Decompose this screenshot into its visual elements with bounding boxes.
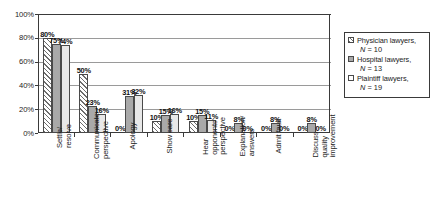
x-axis-label-cell: Apology [111,136,148,218]
x-axis-label-cell: Settle/resolve [38,136,75,218]
bar[interactable]: 10% [152,121,161,133]
x-axis-label-cell: Discussqualityimprovement [294,136,331,218]
bar-slot: 75% [52,14,61,133]
bar-group: 10%15%16% [148,14,185,133]
bar-slot: 0% [280,14,289,133]
legend-entry[interactable]: Plaintiff lawyers,N = 19 [348,74,426,92]
x-axis-label-cell: Explanation/answers [221,136,258,218]
x-axis-category-label: Communicateperspective [93,113,110,159]
x-axis-label-cell: Admit fault [257,136,294,218]
legend-swatch-icon [348,75,354,81]
y-axis-tick-label: 0% [0,129,34,138]
x-axis-label-line: improvement [329,115,338,158]
legend-row: Hospital lawyers, [348,55,426,64]
bar-group: 10%15%11% [184,14,221,133]
legend-sample-size: N = 19 [360,83,426,92]
x-axis-category-label: Explanation/answers [239,116,256,157]
bar-group: 0%31%32% [111,14,148,133]
legend: Physician lawyers,N = 10Hospital lawyers… [344,32,430,98]
legend-label: Plaintiff lawyers, [357,74,408,83]
x-axis-label-line: Show care [165,119,174,154]
bar[interactable]: 10% [189,121,198,133]
x-axis-label-line: Settle/ [55,127,64,148]
legend-label: Physician lawyers, [357,36,416,45]
x-axis-label-line: Hear [201,139,210,155]
x-axis-label-line: Communicate [92,113,101,159]
x-axis-category-label: Admit fault [275,119,284,154]
x-axis-label-line: Apology [128,123,137,150]
x-axis-label-line: answers [247,116,256,157]
bar-slot: 31% [125,14,134,133]
x-axis-label-line: Explanation/ [238,116,247,157]
legend-entry[interactable]: Physician lawyers,N = 10 [348,36,426,54]
bar-group: 80%75%74% [38,14,75,133]
x-axis-label-cell: Hearopponents'perspective [184,136,221,218]
legend-row: Plaintiff lawyers, [348,74,426,83]
bar-slot: 0% [116,14,125,133]
legend-swatch-icon [348,37,354,43]
legend-sample-size: N = 10 [360,45,426,54]
x-axis-label-line: Admit fault [274,119,283,154]
x-axis-category-label: Discussqualityimprovement [312,115,338,158]
x-axis-label-line: Discuss [311,132,320,158]
bar-slot: 8% [271,14,280,133]
y-axis-tick-label: 20% [0,105,34,114]
y-axis-tick-mark [35,133,38,134]
bar-value-label: 32% [131,87,145,96]
bar-value-label: 16% [168,106,182,115]
legend-entry[interactable]: Hospital lawyers,N = 13 [348,55,426,73]
bar-value-label: 74% [58,37,72,46]
bar-slot: 80% [43,14,52,133]
bar[interactable]: 75% [52,44,61,133]
bar[interactable]: 80% [43,38,52,133]
bar-slot: 50% [79,14,88,133]
bar-chart: 0%20%40%60%80%100% 80%75%74%50%23%16%0%3… [0,0,433,218]
y-axis-tick-label: 100% [0,10,34,19]
bar[interactable]: 74% [61,45,70,133]
legend-swatch-icon [348,56,354,62]
y-axis-tick-label: 80% [0,33,34,42]
x-axis-labels: Settle/resolveCommunicateperspectiveApol… [38,136,330,218]
bar-slot: 74% [61,14,70,133]
bar-slot: 15% [161,14,170,133]
bar-groups: 80%75%74%50%23%16%0%31%32%10%15%16%10%15… [38,14,330,133]
x-axis-label-cell: Show care [148,136,185,218]
bar-slot: 16% [170,14,179,133]
x-axis-category-label: Apology [129,123,138,150]
legend-sample-size: N = 13 [360,64,426,73]
x-axis-label-line: resolve [65,124,74,148]
x-axis-label-line: perspective [101,113,110,159]
legend-label: Hospital lawyers, [357,55,411,64]
y-axis-tick-label: 40% [0,81,34,90]
bar-group: 0%8%0% [257,14,294,133]
x-axis-category-label: Show care [166,119,175,154]
legend-row: Physician lawyers, [348,36,426,45]
y-axis-tick-label: 60% [0,57,34,66]
x-axis-label-cell: Communicateperspective [75,136,112,218]
x-axis-category-label: Settle/resolve [56,124,73,148]
bar-slot: 32% [134,14,143,133]
bar-slot: 11% [207,14,216,133]
